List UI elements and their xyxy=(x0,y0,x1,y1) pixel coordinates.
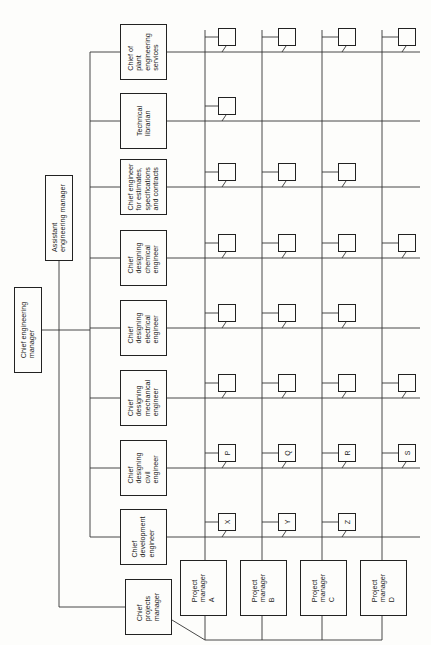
assignment-box: Q xyxy=(278,444,296,462)
connector-lines xyxy=(0,0,431,645)
assignment-box xyxy=(398,234,416,252)
chief-projects-diagonal-line xyxy=(172,620,205,640)
assignment-tick-line xyxy=(342,322,346,328)
project-manager-box: Project manager D xyxy=(360,560,407,616)
assignment-label: Z xyxy=(344,520,351,524)
assignment-tick-line xyxy=(222,181,226,187)
assignment-box xyxy=(278,304,296,322)
chief-engineering-manager-label: Chief engineering manager xyxy=(20,302,37,358)
assignment-box xyxy=(218,374,236,392)
chief-engineering-manager-box: Chief engineering manager xyxy=(14,287,42,373)
project-manager-box: Project manager C xyxy=(300,560,347,616)
project-manager-box: Project manager B xyxy=(240,560,287,616)
project-manager-label: Project manager B xyxy=(251,574,276,602)
assignment-box xyxy=(278,234,296,252)
assignment-box xyxy=(398,28,416,46)
assignment-tick-line xyxy=(402,46,406,52)
assignment-tick-line xyxy=(222,322,226,328)
assignment-box: Z xyxy=(338,513,356,531)
assignment-box xyxy=(398,374,416,392)
assignment-tick-line xyxy=(342,462,346,468)
assignment-label: X xyxy=(224,520,231,525)
assignment-tick-line xyxy=(342,46,346,52)
department-box: Chief designing civil engineer xyxy=(120,440,167,496)
assignment-tick-line xyxy=(222,392,226,398)
assignment-tick-line xyxy=(402,252,406,258)
assignment-tick-line xyxy=(282,392,286,398)
department-label: Chief engineer for estimates, specificat… xyxy=(127,164,161,211)
department-box: Chief designing chemical engineer xyxy=(120,230,167,286)
organization-chart: Chief engineering manager Assistant engi… xyxy=(0,0,431,645)
assignment-box xyxy=(278,163,296,181)
assignment-tick-line xyxy=(342,531,346,537)
assignment-tick-line xyxy=(282,462,286,468)
assignment-tick-line xyxy=(222,115,226,121)
assignment-box xyxy=(338,28,356,46)
assignment-label: Q xyxy=(284,450,291,455)
assignment-box xyxy=(338,234,356,252)
assignment-label: P xyxy=(224,451,231,456)
assignment-tick-line xyxy=(342,392,346,398)
assignment-tick-line xyxy=(222,531,226,537)
assistant-engineering-manager-label: Assistant engineering manager xyxy=(51,184,68,252)
department-box: Technical librarian xyxy=(120,93,167,149)
assignment-box xyxy=(338,304,356,322)
department-label: Chief of plant engineering services xyxy=(127,33,161,71)
assignment-tick-line xyxy=(342,181,346,187)
department-box: Chief engineer for estimates, specificat… xyxy=(120,159,167,215)
department-label: Chief designing civil engineer xyxy=(127,453,161,484)
assignment-box xyxy=(218,28,236,46)
assignment-box xyxy=(218,97,236,115)
assignment-box xyxy=(278,374,296,392)
assignment-box: X xyxy=(218,513,236,531)
department-box: Chief designing mechanical engineer xyxy=(120,370,167,426)
project-manager-label: Project manager D xyxy=(371,574,396,602)
assignment-tick-line xyxy=(282,181,286,187)
department-label: Chief designing chemical engineer xyxy=(127,243,161,274)
chief-projects-manager-box: Chief projects manager xyxy=(125,579,172,635)
department-box: Chief designing electrical engineer xyxy=(120,300,167,356)
assignment-box: P xyxy=(218,444,236,462)
assignment-tick-line xyxy=(222,252,226,258)
project-manager-label: Project manager A xyxy=(191,574,216,602)
assignment-box xyxy=(218,163,236,181)
assignment-tick-line xyxy=(282,322,286,328)
assignment-tick-line xyxy=(282,46,286,52)
assignment-box: R xyxy=(338,444,356,462)
assignment-tick-line xyxy=(342,252,346,258)
project-manager-label: Project manager C xyxy=(311,574,336,602)
assignment-tick-line xyxy=(222,462,226,468)
assignment-box xyxy=(338,374,356,392)
department-label: Chief development engineer xyxy=(131,516,156,557)
assignment-box: Y xyxy=(278,513,296,531)
assignment-label: S xyxy=(404,451,411,456)
chief-projects-manager-label: Chief projects manager xyxy=(136,593,161,621)
assignment-tick-line xyxy=(282,531,286,537)
department-label: Technical librarian xyxy=(135,106,152,136)
department-box: Chief of plant engineering services xyxy=(120,24,167,80)
assignment-box xyxy=(218,234,236,252)
department-label: Chief designing mechanical engineer xyxy=(127,380,161,416)
assignment-tick-line xyxy=(282,252,286,258)
project-manager-box: Project manager A xyxy=(180,560,227,616)
assignment-box xyxy=(278,28,296,46)
assignment-tick-line xyxy=(402,392,406,398)
assignment-label: Y xyxy=(284,520,291,525)
assignment-box xyxy=(218,304,236,322)
assignment-box: S xyxy=(398,444,416,462)
department-label: Chief designing electrical engineer xyxy=(127,313,161,344)
assignment-box xyxy=(338,163,356,181)
department-box: Chief development engineer xyxy=(120,509,167,565)
assignment-tick-line xyxy=(402,462,406,468)
assistant-engineering-manager-box: Assistant engineering manager xyxy=(45,175,73,261)
assignment-tick-line xyxy=(222,46,226,52)
assignment-label: R xyxy=(344,450,351,455)
